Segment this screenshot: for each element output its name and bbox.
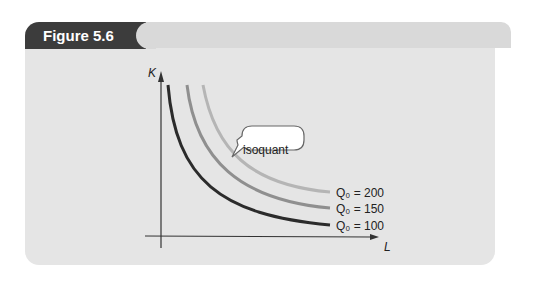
x-axis-arrow-icon	[370, 234, 379, 240]
callout-text: isoquant	[243, 143, 288, 157]
curve-label-q100: Q₀ = 100	[336, 219, 384, 233]
x-axis-label: L	[384, 240, 391, 254]
x-axis	[145, 236, 372, 237]
y-axis-arrow-icon	[158, 71, 164, 82]
y-axis-label: K	[148, 66, 156, 80]
isoquant-chart	[0, 0, 541, 281]
curve-label-q200: Q₀ = 200	[336, 186, 384, 200]
curve-label-q150: Q₀ = 150	[336, 202, 384, 216]
